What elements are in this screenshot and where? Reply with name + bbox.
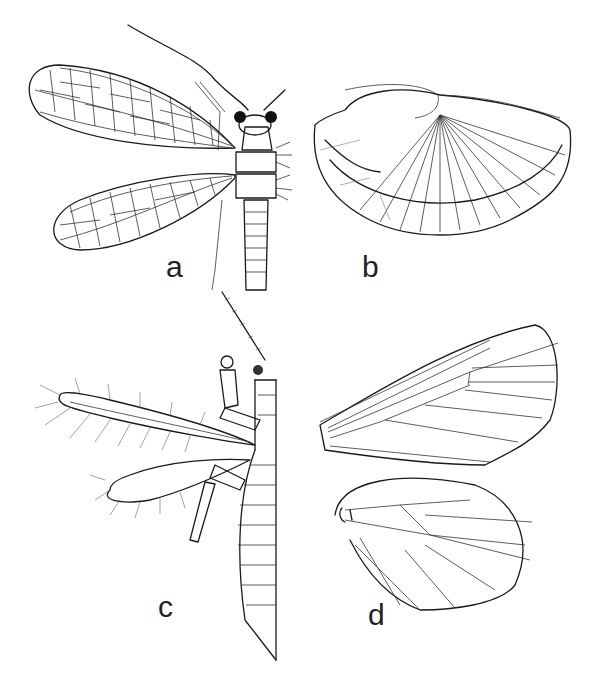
panel-label-b: b [362,252,379,282]
panel-b: b [300,60,591,320]
wings-d-illustration [300,310,591,674]
fan-wing-b-illustration [300,60,591,320]
panel-a: a [0,0,300,300]
panel-label-d: d [368,600,385,630]
panel-label-a: a [166,252,183,282]
insect-c-illustration [0,290,300,674]
panel-d: d [300,310,591,674]
insect-a-illustration [0,0,300,300]
panel-c: c [0,290,300,674]
figure: a b [0,0,591,674]
panel-label-c: c [158,592,173,622]
